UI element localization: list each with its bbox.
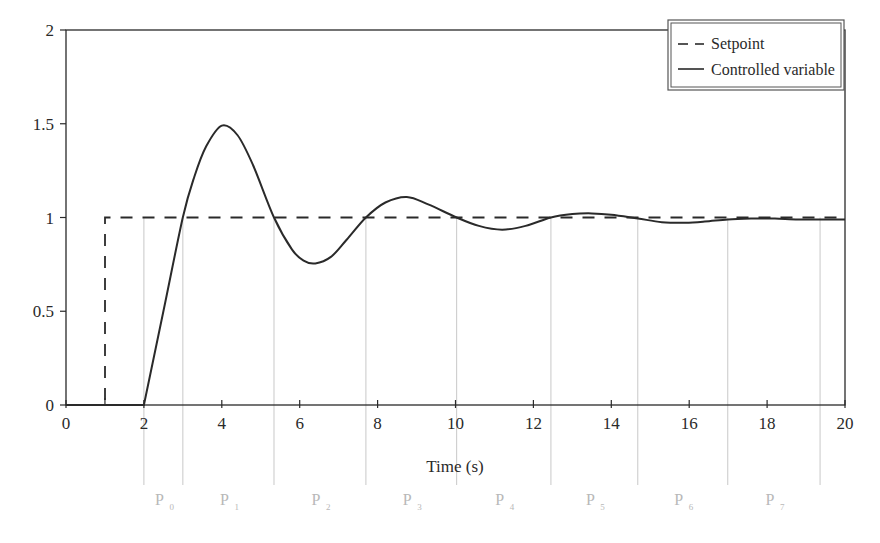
- period-label-p7: P7: [765, 491, 784, 512]
- legend-box-outer: [668, 20, 844, 90]
- period-label-p4: P4: [495, 491, 514, 512]
- x-tick-label: 6: [295, 414, 304, 433]
- x-tick-label: 0: [62, 414, 71, 433]
- period-label-main: P: [312, 491, 321, 508]
- period-label-subscript: 4: [510, 502, 515, 512]
- x-tick-label: 14: [603, 414, 621, 433]
- x-tick-label: 2: [140, 414, 149, 433]
- legend: Setpoint Controlled variable: [668, 20, 844, 90]
- legend-label-setpoint: Setpoint: [711, 35, 765, 53]
- period-label-main: P: [765, 491, 774, 508]
- period-label-subscript: 7: [780, 502, 785, 512]
- x-tick-label: 18: [759, 414, 776, 433]
- y-tick-label: 0.5: [33, 302, 54, 321]
- period-label-subscript: 2: [326, 502, 331, 512]
- legend-label-controlled-variable: Controlled variable: [711, 61, 835, 78]
- x-axis-title: Time (s): [426, 457, 483, 476]
- period-label-p2: P2: [312, 491, 331, 512]
- period-label-subscript: 6: [689, 502, 694, 512]
- period-label-main: P: [495, 491, 504, 508]
- period-marker-lines: [144, 218, 820, 486]
- period-label-main: P: [220, 491, 229, 508]
- y-tick-label: 0: [46, 396, 55, 415]
- y-tick-label: 1.5: [33, 115, 54, 134]
- period-label-main: P: [403, 491, 412, 508]
- period-label-p6: P6: [674, 491, 693, 512]
- period-label-main: P: [155, 491, 164, 508]
- x-tick-label: 4: [218, 414, 227, 433]
- x-tick-label: 10: [447, 414, 464, 433]
- period-label-subscript: 5: [600, 502, 605, 512]
- x-axis: 02468101214161820: [62, 398, 854, 433]
- y-axis: 00.511.52: [33, 21, 66, 415]
- x-tick-label: 8: [373, 414, 382, 433]
- period-label-p3: P3: [403, 491, 422, 512]
- period-label-subscript: 1: [234, 502, 239, 512]
- period-label-subscript: 0: [169, 502, 174, 512]
- x-tick-label: 16: [681, 414, 698, 433]
- period-label-p0: P0: [155, 491, 174, 512]
- period-label-main: P: [586, 491, 595, 508]
- period-label-main: P: [674, 491, 683, 508]
- period-label-p5: P5: [586, 491, 605, 512]
- y-tick-label: 2: [46, 21, 55, 40]
- step-response-chart: 02468101214161820 00.511.52 Time (s) P0P…: [0, 0, 880, 543]
- period-labels: P0P1P2P3P4P5P6P7: [155, 491, 785, 512]
- period-label-p1: P1: [220, 491, 239, 512]
- x-tick-label: 12: [525, 414, 542, 433]
- x-tick-label: 20: [837, 414, 854, 433]
- y-tick-label: 1: [46, 209, 55, 228]
- period-label-subscript: 3: [417, 502, 422, 512]
